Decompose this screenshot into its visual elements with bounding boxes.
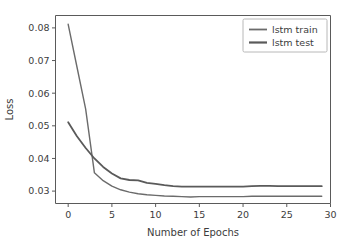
y-tick-label: 0.06 bbox=[28, 88, 49, 99]
y-tick-label: 0.07 bbox=[28, 55, 49, 66]
loss-vs-epochs-line-chart: 051015202530 0.030.040.050.060.070.08 Nu… bbox=[0, 0, 349, 244]
x-tick-label: 10 bbox=[150, 209, 162, 220]
x-axis-label: Number of Epochs bbox=[147, 227, 239, 238]
legend-label-lstm-test: lstm test bbox=[272, 37, 314, 48]
y-tick-label: 0.04 bbox=[28, 153, 49, 164]
x-tick-label: 15 bbox=[193, 209, 205, 220]
x-tick-label: 5 bbox=[109, 209, 115, 220]
y-tick-label: 0.05 bbox=[28, 120, 49, 131]
chart-screenshot: 051015202530 0.030.040.050.060.070.08 Nu… bbox=[0, 0, 349, 244]
x-tick-label: 0 bbox=[65, 209, 71, 220]
legend: lstm trainlstm test bbox=[243, 19, 327, 52]
legend-label-lstm-train: lstm train bbox=[272, 24, 318, 35]
x-tick-label: 25 bbox=[281, 209, 293, 220]
x-tick-label: 20 bbox=[237, 209, 249, 220]
y-tick-label: 0.03 bbox=[28, 185, 49, 196]
x-tick-label: 30 bbox=[324, 209, 336, 220]
y-tick-label: 0.08 bbox=[28, 22, 49, 33]
matplotlib-figure: 051015202530 0.030.040.050.060.070.08 Nu… bbox=[0, 0, 349, 244]
y-axis-label: Loss bbox=[4, 99, 15, 121]
